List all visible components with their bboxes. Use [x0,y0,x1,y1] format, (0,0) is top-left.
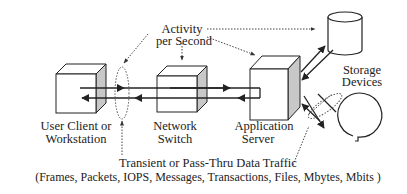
measurement-point-ellipse [115,67,129,119]
data-traffic-diagram: Activity per Second Storage Devices User… [0,0,407,194]
client-label-2: Workstation [46,132,108,146]
storage-disk-icon [328,12,362,55]
server-tape-arrows [302,94,336,128]
traffic-label-1: Transient or Pass-Thru Data Traffic [119,156,297,170]
switch-label-2: Switch [158,132,193,146]
network-switch-cube [157,66,207,112]
client-label-1: User Client or [41,119,113,133]
server-label-2: Server [242,132,275,146]
switch-label-1: Network [153,119,197,133]
traffic-label-2: (Frames, Packets, IOPS, Messages, Transa… [35,170,381,184]
storage-label-2: Devices [342,75,382,89]
activity-label-2: per Second [156,34,213,48]
server-label-1: Application [234,119,294,133]
storage-tape-icon [338,93,382,141]
